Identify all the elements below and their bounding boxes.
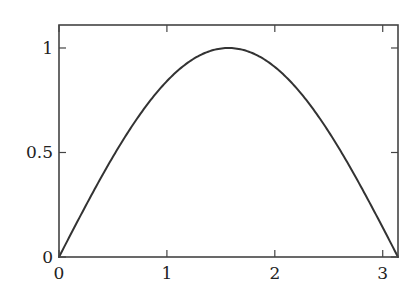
x-tick-label: 3 bbox=[377, 263, 388, 283]
y-tick-label: 1 bbox=[42, 38, 53, 58]
x-tick-label: 0 bbox=[54, 263, 65, 283]
x-tick-label: 2 bbox=[269, 263, 280, 283]
tick-marks bbox=[59, 25, 398, 257]
x-tick-label: 1 bbox=[161, 263, 172, 283]
sine-curve bbox=[59, 48, 398, 257]
tick-labels: 012300.51 bbox=[26, 38, 388, 283]
y-tick-label: 0 bbox=[42, 247, 53, 267]
sine-chart: 012300.51 bbox=[0, 0, 417, 297]
y-tick-label: 0.5 bbox=[26, 142, 53, 162]
axes-frame bbox=[59, 25, 398, 257]
